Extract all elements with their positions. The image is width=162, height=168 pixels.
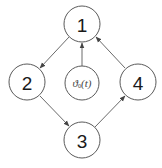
edge-4-to-1: [96, 37, 125, 68]
edge-2-to-3: [40, 96, 69, 126]
node-4: 4: [120, 64, 156, 100]
theta0-formula: ϑ0(t): [73, 77, 92, 90]
graph-canvas: 1 2 3 4 ϑ0(t): [0, 0, 162, 168]
node-3-label: 3: [77, 131, 88, 152]
node-2: 2: [9, 64, 45, 100]
edge-3-to-4: [95, 96, 125, 127]
node-theta0: ϑ0(t): [65, 66, 99, 100]
node-1: 1: [64, 6, 100, 42]
theta-argument: (t): [81, 77, 92, 90]
node-2-label: 2: [22, 73, 33, 94]
node-3: 3: [64, 122, 100, 158]
node-1-label: 1: [77, 15, 88, 36]
node-4-label: 4: [133, 73, 144, 94]
edge-1-to-2: [40, 37, 69, 68]
